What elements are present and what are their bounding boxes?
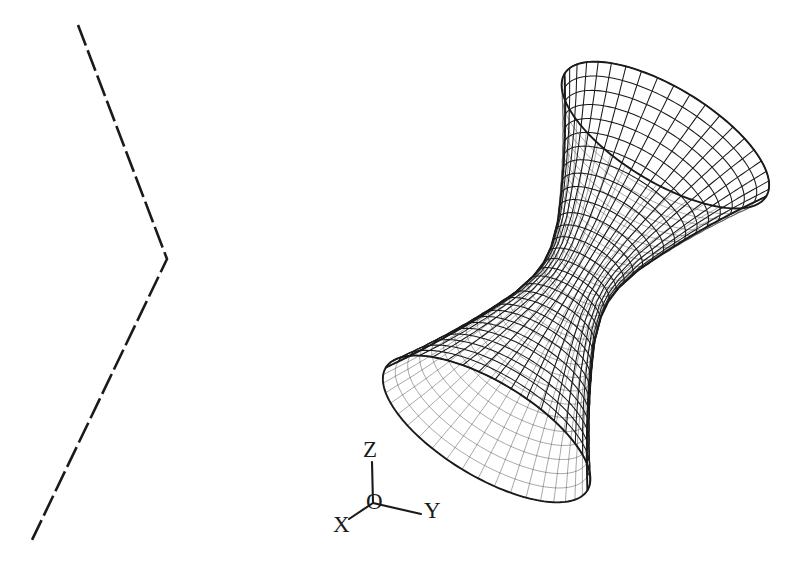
surface-of-revolution-wireframe	[383, 62, 769, 503]
axis-label-origin: O	[366, 489, 383, 514]
axis-label-y: Y	[424, 498, 441, 523]
bent-dashed-reference-line	[32, 25, 167, 540]
dashed-polyline-path	[32, 25, 167, 540]
axis-label-x: X	[333, 512, 350, 537]
mesh-front-faces	[386, 62, 769, 491]
figure-svg: Z Y X O	[0, 0, 809, 573]
figure-canvas: Z Y X O	[0, 0, 809, 573]
axis-label-z: Z	[363, 437, 377, 462]
coordinate-axis-triad: Z Y X O	[333, 437, 441, 537]
